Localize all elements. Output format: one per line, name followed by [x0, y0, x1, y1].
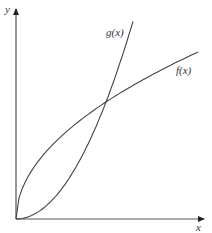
g-label: g(x): [106, 26, 124, 39]
function-graph: y x g(x) f(x): [0, 0, 212, 233]
curve-g: [16, 21, 133, 219]
f-label: f(x): [176, 64, 192, 77]
curve-f: [16, 52, 198, 219]
y-axis-label: y: [4, 3, 10, 15]
x-axis-label: x: [195, 221, 201, 233]
